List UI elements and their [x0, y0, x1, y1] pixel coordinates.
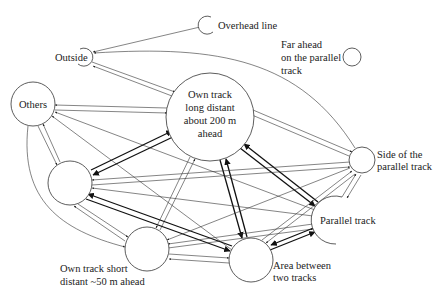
node-side-parallel: Side of the parallel track	[349, 147, 433, 173]
node-area-between: Area between two tracks	[229, 238, 332, 283]
node-unlabeled	[48, 161, 92, 205]
svg-text:Others: Others	[19, 99, 47, 110]
svg-text:Far ahead: Far ahead	[281, 39, 323, 50]
svg-text:Area between: Area between	[273, 260, 332, 271]
svg-text:about 200 m: about 200 m	[184, 115, 237, 126]
svg-text:Own track: Own track	[188, 89, 233, 100]
svg-text:Overhead line: Overhead line	[218, 20, 278, 31]
svg-text:distant ~50 m ahead: distant ~50 m ahead	[60, 276, 145, 287]
svg-text:Outside: Outside	[55, 52, 88, 63]
svg-text:ahead: ahead	[198, 128, 223, 139]
node-own-track-short: Own track short distant ~50 m ahead	[60, 227, 169, 287]
svg-text:long distant: long distant	[185, 102, 234, 113]
svg-text:on the parallel: on the parallel	[281, 52, 341, 63]
nodes: Overhead line Outside Others Own track l…	[11, 16, 433, 287]
node-own-track-long: Own track long distant about 200 m ahead	[166, 73, 254, 161]
node-others: Others	[11, 82, 55, 126]
svg-text:track: track	[281, 65, 303, 76]
svg-text:parallel track: parallel track	[377, 161, 433, 172]
svg-text:Own track short: Own track short	[60, 263, 128, 274]
node-overhead-line: Overhead line	[198, 16, 277, 34]
state-transition-diagram: Overhead line Outside Others Own track l…	[0, 0, 443, 300]
svg-text:Side of the: Side of the	[377, 149, 423, 160]
node-parallel-track: Parallel track	[311, 196, 376, 244]
svg-text:Parallel track: Parallel track	[320, 215, 376, 226]
node-outside: Outside	[55, 48, 93, 66]
svg-text:two tracks: two tracks	[273, 272, 316, 283]
node-far-ahead: Far ahead on the parallel track	[281, 39, 361, 76]
